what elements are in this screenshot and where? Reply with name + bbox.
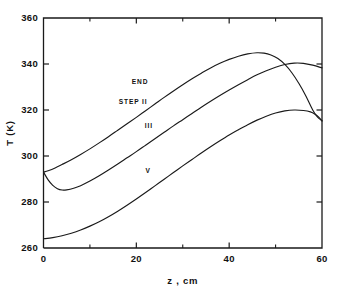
temperature-profile-chart: 260280300320340360 0204060 ENDSTEP IIIII… xyxy=(0,0,341,295)
curve-label-v: V xyxy=(146,167,151,174)
y-tick-label: 280 xyxy=(21,196,38,207)
y-tick-label: 300 xyxy=(21,150,38,161)
y-tick-label: 260 xyxy=(21,242,38,253)
y-tick-label: 320 xyxy=(21,104,38,115)
curve-label-iii: III xyxy=(145,122,153,129)
x-tick-label: 40 xyxy=(224,253,235,264)
x-tick-label: 60 xyxy=(316,253,327,264)
figure-root: 260280300320340360 0204060 ENDSTEP IIIII… xyxy=(0,0,341,295)
x-tick-label: 0 xyxy=(41,253,47,264)
y-tick-label: 360 xyxy=(21,12,38,23)
x-tick-label: 20 xyxy=(131,253,142,264)
curve-label-end: END xyxy=(132,78,149,85)
y-tick-label: 340 xyxy=(21,58,38,69)
y-axis-title: T (K) xyxy=(4,120,15,146)
x-axis-title: z , cm xyxy=(167,275,198,286)
chart-background xyxy=(0,0,341,295)
curve-label-step-ii: STEP II xyxy=(119,98,148,105)
